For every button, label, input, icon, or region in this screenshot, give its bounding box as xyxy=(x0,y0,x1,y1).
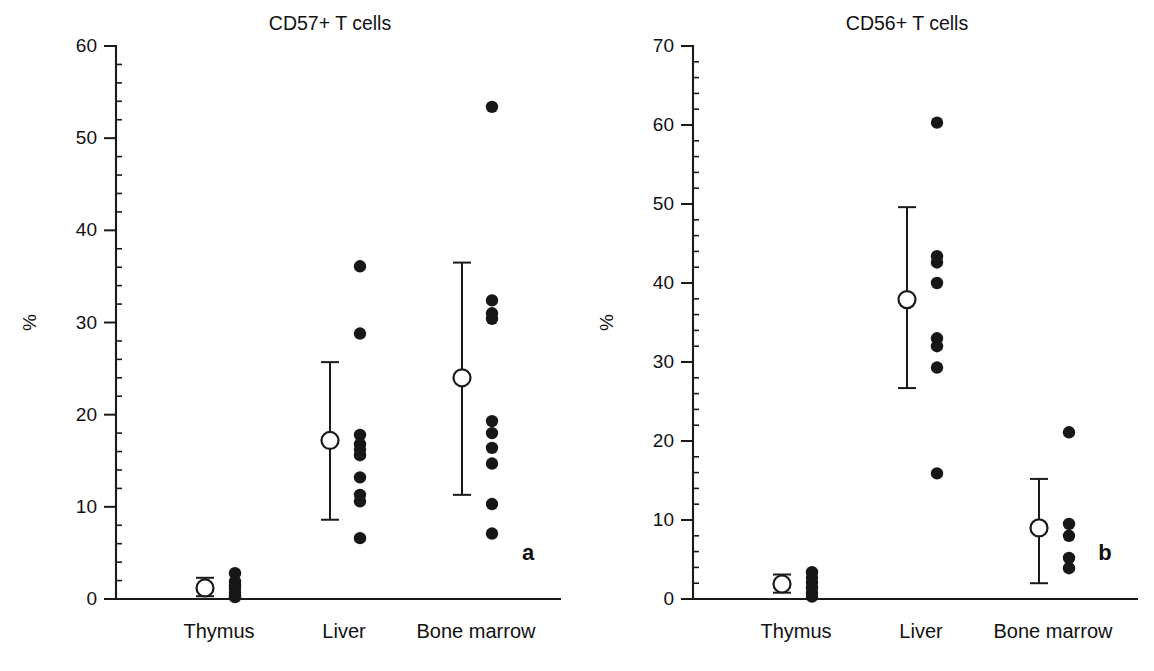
y-tick-label: 60 xyxy=(653,114,674,135)
x-axis-label-thymus: Thymus xyxy=(183,620,254,642)
y-tick-label: 50 xyxy=(76,127,97,148)
data-point xyxy=(931,250,943,262)
mean-marker xyxy=(899,291,916,308)
mean-marker xyxy=(1031,519,1048,536)
data-point xyxy=(1063,518,1075,530)
y-tick-label: 40 xyxy=(76,219,97,240)
data-point xyxy=(354,429,366,441)
data-point xyxy=(354,489,366,501)
data-point xyxy=(486,527,498,539)
group-bone-marrow xyxy=(453,101,498,540)
data-point xyxy=(354,327,366,339)
y-axis-title-b: % xyxy=(596,314,617,331)
group-liver xyxy=(321,260,366,544)
mean-marker xyxy=(774,575,791,592)
data-point xyxy=(931,361,943,373)
y-tick-label: 70 xyxy=(653,35,674,56)
data-point xyxy=(931,467,943,479)
data-point xyxy=(354,260,366,272)
group-thymus xyxy=(196,567,241,603)
data-point xyxy=(354,532,366,544)
panel-title-b: CD56+ T cells xyxy=(846,12,969,34)
x-axis-label-liver: Liver xyxy=(899,620,943,642)
panel-b: CD56+ T cells010203040506070%ThymusLiver… xyxy=(577,0,1154,671)
chart-svg-a: CD57+ T cells0102030405060%ThymusLiverBo… xyxy=(0,0,577,671)
group-thymus xyxy=(773,566,818,603)
y-tick-label: 10 xyxy=(76,496,97,517)
axis-spine-b xyxy=(693,46,1137,599)
panel-title-a: CD57+ T cells xyxy=(269,12,392,34)
y-tick-label: 60 xyxy=(76,35,97,56)
panel-a: CD57+ T cells0102030405060%ThymusLiverBo… xyxy=(0,0,577,671)
y-tick-label: 50 xyxy=(653,193,674,214)
y-tick-label: 40 xyxy=(653,272,674,293)
x-axis-label-bone-marrow: Bone marrow xyxy=(417,620,536,642)
group-liver xyxy=(898,116,943,479)
y-tick-label: 10 xyxy=(653,509,674,530)
y-tick-label: 20 xyxy=(76,404,97,425)
data-point xyxy=(486,307,498,319)
data-point xyxy=(486,442,498,454)
data-point xyxy=(931,116,943,128)
x-axis-label-bone-marrow: Bone marrow xyxy=(994,620,1113,642)
y-tick-label: 0 xyxy=(663,588,674,609)
data-point xyxy=(806,566,818,578)
y-tick-label: 30 xyxy=(76,312,97,333)
data-point xyxy=(229,567,241,579)
group-bone-marrow xyxy=(1030,426,1075,583)
mean-marker xyxy=(454,369,471,386)
data-point xyxy=(931,332,943,344)
y-tick-label: 0 xyxy=(86,588,97,609)
data-point xyxy=(486,498,498,510)
y-axis-title-a: % xyxy=(19,314,40,331)
data-point xyxy=(354,471,366,483)
data-point xyxy=(486,294,498,306)
panel-letter-b: b xyxy=(1098,540,1111,565)
mean-marker xyxy=(197,579,214,596)
data-point xyxy=(486,457,498,469)
figure-container: CD57+ T cells0102030405060%ThymusLiverBo… xyxy=(0,0,1154,671)
x-axis-label-liver: Liver xyxy=(322,620,366,642)
data-point xyxy=(931,277,943,289)
x-axis-label-thymus: Thymus xyxy=(760,620,831,642)
data-point xyxy=(1063,426,1075,438)
data-point xyxy=(1063,530,1075,542)
data-point xyxy=(486,415,498,427)
panel-letter-a: a xyxy=(522,540,535,565)
y-tick-label: 20 xyxy=(653,430,674,451)
data-point xyxy=(486,101,498,113)
chart-svg-b: CD56+ T cells010203040506070%ThymusLiver… xyxy=(577,0,1154,671)
data-point xyxy=(1063,552,1075,564)
mean-marker xyxy=(322,432,339,449)
y-tick-label: 30 xyxy=(653,351,674,372)
data-point xyxy=(486,427,498,439)
